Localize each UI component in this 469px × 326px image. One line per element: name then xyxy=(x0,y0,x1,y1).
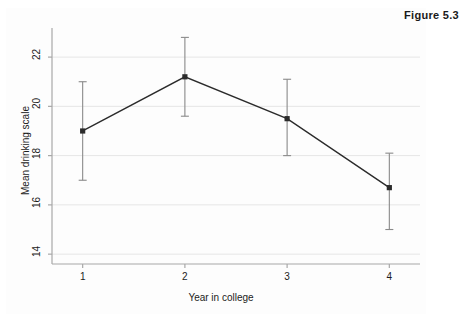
axis-ticks xyxy=(48,57,389,268)
x-axis-title: Year in college xyxy=(50,292,392,303)
chart-axes xyxy=(52,28,420,264)
chart-plot-area: Mean drinking scale Year in college 1416… xyxy=(0,0,469,326)
y-tick-label-text: 18 xyxy=(32,148,43,159)
data-line xyxy=(83,77,390,188)
x-tick-label: 1 xyxy=(73,271,93,282)
x-tick-label: 4 xyxy=(379,271,399,282)
gridlines xyxy=(52,57,420,254)
error-bars xyxy=(79,37,394,229)
y-tick-label-text: 20 xyxy=(32,98,43,109)
y-tick-label: 16 xyxy=(28,197,46,213)
x-tick-label: 3 xyxy=(277,271,297,282)
y-tick-label: 22 xyxy=(28,49,46,65)
y-tick-label: 18 xyxy=(28,148,46,164)
figure-container: Figure 5.3 Mean drinking scale Year in c… xyxy=(0,0,469,326)
y-tick-label-text: 14 xyxy=(32,246,43,257)
y-tick-label-text: 22 xyxy=(32,49,43,60)
y-tick-label: 20 xyxy=(28,98,46,114)
y-tick-label-text: 16 xyxy=(32,197,43,208)
x-tick-label: 2 xyxy=(175,271,195,282)
data-markers xyxy=(80,74,392,190)
y-tick-label: 14 xyxy=(28,246,46,262)
